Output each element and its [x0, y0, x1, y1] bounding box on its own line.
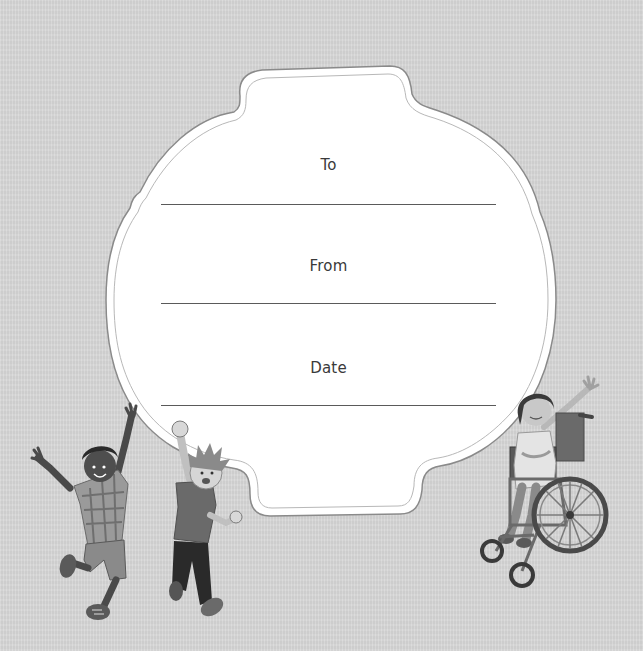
from-line[interactable]	[161, 303, 496, 304]
girl-wheelchair-illustration	[470, 375, 610, 590]
date-label: Date	[161, 359, 496, 377]
boy-red-shirt-illustration	[150, 415, 250, 625]
to-label: To	[161, 156, 496, 174]
date-line[interactable]	[161, 405, 496, 406]
from-label: From	[161, 257, 496, 275]
boy-plaid-shirt-illustration	[30, 400, 145, 625]
to-line[interactable]	[161, 204, 496, 205]
